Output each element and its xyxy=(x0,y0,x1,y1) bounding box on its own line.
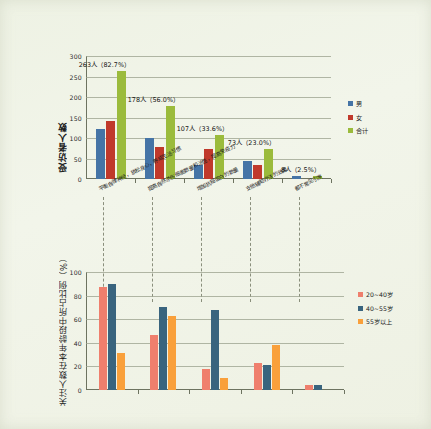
bar xyxy=(159,307,167,390)
gridline xyxy=(86,272,344,273)
legend-item-female[interactable]: 女 xyxy=(348,113,368,122)
bottom-chart-legend: 20~40岁 40~55岁 55岁以上 xyxy=(358,290,393,331)
bar xyxy=(106,121,115,179)
bar-value-label: 73人（23.0%） xyxy=(228,138,275,147)
x-axis-tick xyxy=(292,390,293,394)
bar xyxy=(220,378,228,390)
legend-item-age-40-55[interactable]: 40~55岁 xyxy=(358,304,393,313)
gridline xyxy=(86,56,331,57)
legend-label-age-40-55: 40~55岁 xyxy=(366,304,393,313)
y-axis-tick-label: 100 xyxy=(70,135,82,142)
y-axis-tick-label: 20 xyxy=(74,363,82,370)
y-axis-tick-label: 60 xyxy=(74,316,82,323)
legend-label-female: 女 xyxy=(356,113,362,122)
legend-swatch-age-55-plus xyxy=(358,319,363,324)
bar xyxy=(263,365,271,390)
bar-value-label: 263人（82.7%） xyxy=(79,60,131,69)
legend-item-age-20-40[interactable]: 20~40岁 xyxy=(358,290,393,299)
y-axis-tick-label: 250 xyxy=(70,73,82,80)
bar xyxy=(117,353,125,390)
y-axis-tick-label: 150 xyxy=(70,114,82,121)
bar xyxy=(150,335,158,390)
x-axis-tick xyxy=(189,390,190,394)
bottom-chart-plot-area: 020406080100 xyxy=(86,272,344,390)
x-axis-tick xyxy=(241,390,242,394)
chart-age-group-share: 关注人数在本年龄段中所占比例（%） 020406080100 20~40岁 40… xyxy=(0,232,431,429)
bar-value-label: 107人（33.6%） xyxy=(177,124,229,133)
bar xyxy=(272,345,280,390)
y-axis-tick-label: 0 xyxy=(78,387,82,394)
x-axis-tick xyxy=(138,390,139,394)
legend-swatch-total xyxy=(348,128,353,133)
x-axis-tick xyxy=(331,179,332,183)
top-chart-legend: 男 女 合计 xyxy=(348,99,368,140)
page-canvas: 受访者人数 050100150200250300263人（82.7%）178人（… xyxy=(0,0,431,429)
x-axis-tick xyxy=(282,179,283,183)
bar xyxy=(99,287,107,390)
bar xyxy=(243,161,252,179)
x-axis-tick xyxy=(184,179,185,183)
bar xyxy=(292,176,301,179)
legend-item-male[interactable]: 男 xyxy=(348,99,368,108)
y-axis-tick-label: 200 xyxy=(70,94,82,101)
legend-swatch-age-40-55 xyxy=(358,306,363,311)
legend-item-age-55-plus[interactable]: 55岁以上 xyxy=(358,317,393,326)
bar xyxy=(254,363,262,390)
x-axis-tick xyxy=(344,390,345,394)
legend-label-age-20-40: 20~40岁 xyxy=(366,290,393,299)
gridline xyxy=(86,296,344,297)
bar xyxy=(117,71,126,179)
bottom-chart-y-axis xyxy=(86,272,87,390)
y-axis-tick-label: 80 xyxy=(74,292,82,299)
chart-respondent-counts: 受访者人数 050100150200250300263人（82.7%）178人（… xyxy=(0,0,431,232)
bar-value-label: 178人（56.0%） xyxy=(128,95,180,104)
bar xyxy=(202,369,210,390)
bar xyxy=(314,385,322,390)
bar xyxy=(166,106,175,179)
legend-label-age-55-plus: 55岁以上 xyxy=(366,317,392,326)
bar xyxy=(108,284,116,390)
legend-swatch-female xyxy=(348,115,353,120)
bar xyxy=(168,316,176,390)
y-axis-tick-label: 300 xyxy=(70,53,82,60)
legend-label-male: 男 xyxy=(356,99,362,108)
legend-item-total[interactable]: 合计 xyxy=(348,126,368,135)
y-axis-tick-label: 0 xyxy=(78,176,82,183)
y-axis-tick-label: 50 xyxy=(74,155,82,162)
bottom-chart-y-axis-title: 关注人数在本年龄段中所占比例（%） xyxy=(58,250,70,406)
x-axis-tick xyxy=(233,179,234,183)
bar xyxy=(305,385,313,390)
legend-label-total: 合计 xyxy=(356,126,368,135)
bar xyxy=(96,129,105,179)
legend-swatch-age-20-40 xyxy=(358,292,363,297)
top-chart-y-axis-title: 受访者人数 xyxy=(55,64,68,172)
y-axis-tick-label: 100 xyxy=(70,269,82,276)
x-axis-tick xyxy=(135,179,136,183)
y-axis-tick-label: 40 xyxy=(74,339,82,346)
legend-swatch-male xyxy=(348,101,353,106)
bar xyxy=(211,310,219,390)
